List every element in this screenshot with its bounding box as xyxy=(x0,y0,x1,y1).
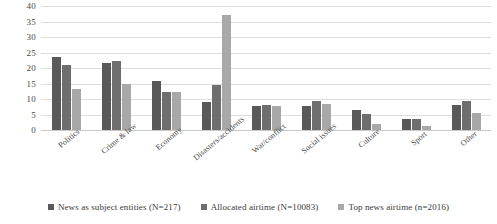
bar xyxy=(172,92,181,130)
legend-label: Top news airtime (n=2016) xyxy=(348,202,449,212)
x-tick: Crime & law xyxy=(91,131,141,189)
y-tick-label: 10 xyxy=(27,95,36,104)
y-tick-label: 15 xyxy=(27,79,36,88)
bar xyxy=(402,119,411,130)
y-tick-label: 0 xyxy=(31,126,36,135)
legend-label: News as subject entities (N=217) xyxy=(58,202,181,212)
bar xyxy=(52,57,61,130)
bar-group xyxy=(41,6,91,130)
bar xyxy=(452,105,461,130)
bar xyxy=(362,114,371,130)
bar xyxy=(212,85,221,130)
bar xyxy=(222,15,231,130)
legend-item[interactable]: Top news airtime (n=2016) xyxy=(338,202,449,212)
y-axis: 0510152025303540 xyxy=(0,6,40,130)
bar-group xyxy=(191,6,241,130)
y-tick-label: 25 xyxy=(27,48,36,57)
x-tick: Disasters/accidents xyxy=(191,131,241,189)
bar xyxy=(152,81,161,130)
x-tick: Sport xyxy=(391,131,441,189)
bar xyxy=(252,106,261,130)
x-tick-label: Culture xyxy=(357,127,382,150)
bar-group xyxy=(291,6,341,130)
legend-item[interactable]: Allocated airtime (N=10083) xyxy=(201,202,319,212)
bar-group xyxy=(341,6,391,130)
x-tick: Economy xyxy=(141,131,191,189)
y-tick-label: 40 xyxy=(27,2,36,11)
bar xyxy=(462,101,471,130)
legend-swatch-icon xyxy=(338,204,344,210)
x-axis: PoliticsCrime & lawEconomyDisasters/acci… xyxy=(41,131,491,189)
bar xyxy=(62,65,71,130)
legend-swatch-icon xyxy=(48,204,54,210)
bar-group xyxy=(441,6,491,130)
legend-swatch-icon xyxy=(201,204,207,210)
x-tick-label: Politics xyxy=(56,127,81,150)
x-tick-label: Other xyxy=(459,129,479,148)
x-tick: War/conflict xyxy=(241,131,291,189)
bar xyxy=(102,63,111,130)
bar-group xyxy=(91,6,141,130)
bar-groups xyxy=(41,6,491,130)
bar xyxy=(162,92,171,130)
plot-area: 0510152025303540 xyxy=(0,0,497,140)
x-tick: Social issues xyxy=(291,131,341,189)
bar-group xyxy=(391,6,441,130)
bar xyxy=(202,102,211,130)
bar-chart: 0510152025303540 PoliticsCrime & lawEcon… xyxy=(0,0,497,224)
y-tick-label: 35 xyxy=(27,17,36,26)
x-tick: Other xyxy=(441,131,491,189)
bar xyxy=(262,105,271,130)
bar xyxy=(352,110,361,130)
y-tick-label: 20 xyxy=(27,64,36,73)
bar xyxy=(72,89,81,130)
y-tick-label: 30 xyxy=(27,33,36,42)
chart-legend: News as subject entities (N=217)Allocate… xyxy=(0,198,497,216)
x-tick: Culture xyxy=(341,131,391,189)
legend-label: Allocated airtime (N=10083) xyxy=(211,202,319,212)
y-tick-label: 5 xyxy=(31,110,36,119)
bar-group xyxy=(141,6,191,130)
bar-group xyxy=(241,6,291,130)
bar xyxy=(302,106,311,130)
bar xyxy=(112,61,121,130)
legend-item[interactable]: News as subject entities (N=217) xyxy=(48,202,181,212)
x-tick: Politics xyxy=(41,131,91,189)
x-tick-label: Sport xyxy=(409,129,428,147)
bar xyxy=(412,119,421,130)
bar xyxy=(312,101,321,130)
